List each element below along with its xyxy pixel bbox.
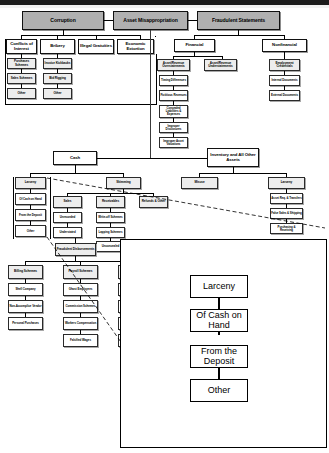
node-conflicts-of-interest[interactable]: Conflicts of Interest [6,39,37,54]
node-fraudulent-statements[interactable]: Fraudulent Statements [197,11,280,30]
node-bid-rigging[interactable]: Bid Rigging [43,73,72,84]
node-illegal-gratuities[interactable]: Illegal Gratuities [78,39,114,54]
node-personal-purchases[interactable]: Personal Purchases [8,317,43,330]
corruption-group-left [5,39,6,104]
node-concealed-liabilities[interactable]: Concealed Liabilities & Expenses [159,105,188,118]
node-inventory-and-all-other-assets[interactable]: Inventory and All Other Assets [207,148,259,167]
node-payroll-schemes[interactable]: Payroll Schemes [63,265,98,279]
node-falsified-wages[interactable]: Falsified Wages [63,334,98,347]
node-unrecorded[interactable]: Unrecorded [53,212,82,223]
node-workers-compensation[interactable]: Workers Compensation [63,317,98,330]
cash-group-left [13,177,14,239]
connector-cash-right [97,158,218,159]
node-external-documents[interactable]: External Documents [269,90,300,101]
magnified-callout-panel [120,239,327,448]
node-commission-schemes[interactable]: Commission Schemes [63,300,98,313]
node-fictitious-revenues[interactable]: Fictitious Revenues [159,90,188,101]
node-asset-revenue-understatements[interactable]: Asset/Revenue Understatements [204,59,237,71]
fraudstmt-group-top [155,36,156,37]
node-of-cash-on-hand[interactable]: Of Cash on Hand [15,193,46,205]
callout-node-from-the-deposit[interactable]: From the Deposit [190,345,248,368]
node-asset-revenue-overstatements[interactable]: Asset/Revenue Overstatements [157,59,190,71]
node-fraudulent-disbursements[interactable]: Fraudulent Disbursements [55,243,96,256]
node-refunds-other[interactable]: Refunds & Other [139,196,168,208]
callout-connector-2 [218,332,220,335]
fraud-tree-diagram: Corruption Asset Misappropriation Fraudu… [0,0,329,453]
node-sales[interactable]: Sales [53,196,82,208]
node-employment-credentials[interactable]: Employment Credentials [269,59,300,71]
node-coi-other[interactable]: Other [7,88,36,99]
node-larceny-other[interactable]: Other [15,225,46,237]
node-asset-misappropriation[interactable]: Asset Misappropriation [113,11,188,30]
node-invoice-kickbacks[interactable]: Invoice Kickbacks [43,58,72,69]
connector-corruption-assetmis [104,20,113,21]
node-corruption[interactable]: Corruption [22,11,104,30]
callout-node-other[interactable]: Other [190,379,248,402]
node-non-accomplice-vendor[interactable]: Non-Accomplice Vendor [8,300,43,313]
node-inventory-larceny[interactable]: Larceny [268,177,305,189]
node-internal-documents[interactable]: Internal Documents [269,75,300,86]
node-bribery[interactable]: Bribery [40,39,75,54]
node-receivables[interactable]: Receivables [96,196,125,208]
node-improper-disclosures[interactable]: Improper Disclosures [159,122,188,133]
node-purchases-schemes[interactable]: Purchases Schemes [7,58,36,69]
connector-inv-bus [199,173,286,174]
node-sales-schemes[interactable]: Sales Schemes [7,73,36,84]
node-purchasing-receiving[interactable]: Purchasing & Receiving [270,223,303,234]
node-false-sales-shipping[interactable]: False Sales & Shipping [270,208,303,219]
node-misuse[interactable]: Misuse [181,177,218,189]
corruption-group-bottom [5,104,157,105]
node-understated[interactable]: Understated [53,227,82,238]
connector-assetmis-fraudstmt [188,20,197,21]
connector-cash-childbus [30,173,123,174]
node-improper-asset-valuations[interactable]: Improper Asset Valuations [159,137,188,148]
node-billing-schemes[interactable]: Billing Schemes [8,265,43,279]
callout-node-of-cash-on-hand[interactable]: Of Cash on Hand [190,309,248,332]
top-band-highlight [0,5,329,8]
node-shell-company[interactable]: Shell Company [8,283,43,296]
callout-connector-3 [218,368,220,379]
connector-nonfin-c1 [284,52,285,59]
connector-corruption-bus [21,35,140,36]
node-bribery-other[interactable]: Other [43,88,72,99]
node-cash-larceny[interactable]: Larceny [15,177,46,189]
node-cash[interactable]: Cash [53,151,97,165]
callout-node-larceny[interactable]: Larceny [190,275,248,298]
node-financial[interactable]: Financial [174,39,215,52]
connector-financial-bus [173,56,222,57]
node-asset-req-transfers[interactable]: Asset Req. & Transfers [270,193,303,204]
node-from-the-deposit[interactable]: From the Deposit [15,209,46,221]
callout-connector-1 [218,298,220,309]
node-ghost-employees[interactable]: Ghost Employees [63,283,98,296]
cash-group-divider [50,177,51,239]
asset-mis-spine [150,30,151,158]
node-economic-extortion[interactable]: Economic Extortion [117,39,154,54]
node-nonfinancial[interactable]: Nonfinancial [262,39,307,52]
connector-fraudstmt-bus [194,35,284,36]
node-write-off-schemes[interactable]: Write-off Schemes [96,212,125,223]
node-lapping-schemes[interactable]: Lapping Schemes [96,227,125,238]
connector-cash-down [75,165,76,173]
node-timing-differences[interactable]: Timing Differences [159,75,188,86]
node-skimming[interactable]: Skimming [106,177,141,189]
